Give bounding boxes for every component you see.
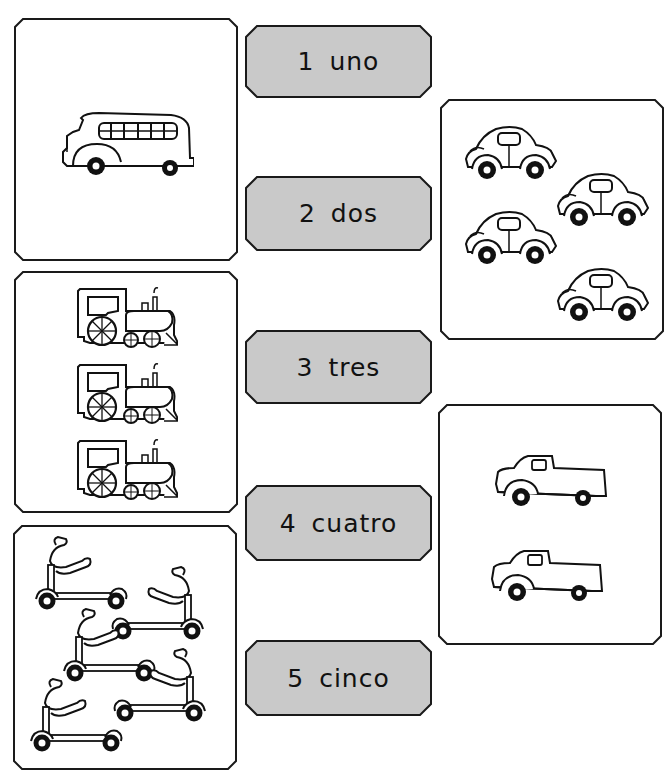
label-uno: 1 uno xyxy=(245,25,432,98)
bus-icon xyxy=(59,110,194,176)
label-text: 5 cinco xyxy=(245,640,432,716)
card-trains xyxy=(14,271,238,513)
car-icon xyxy=(462,123,558,181)
train-icon xyxy=(70,285,178,351)
label-cinco: 5 cinco xyxy=(245,640,432,716)
train-icon xyxy=(70,361,178,427)
car-icon xyxy=(554,265,650,323)
card-cars xyxy=(440,99,664,340)
scooter-icon xyxy=(111,647,211,723)
truck-icon xyxy=(492,452,610,508)
car-icon xyxy=(554,170,650,228)
car-icon xyxy=(462,208,558,266)
label-text: 3 tres xyxy=(245,330,432,404)
card-scooters xyxy=(13,525,237,770)
scooter-icon xyxy=(25,677,125,753)
truck-icon xyxy=(488,547,606,603)
label-tres: 3 tres xyxy=(245,330,432,404)
label-dos: 2 dos xyxy=(245,176,432,251)
card-bus xyxy=(14,18,238,261)
label-text: 1 uno xyxy=(245,25,432,98)
label-text: 4 cuatro xyxy=(245,485,432,561)
label-text: 2 dos xyxy=(245,176,432,251)
train-icon xyxy=(70,437,178,503)
label-cuatro: 4 cuatro xyxy=(245,485,432,561)
card-trucks xyxy=(438,404,662,645)
card-frame xyxy=(438,404,662,645)
